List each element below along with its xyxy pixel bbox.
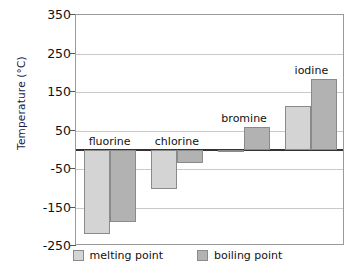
- y-tick-label: 350: [11, 7, 71, 22]
- bar-iodine-boiling-point: [311, 79, 337, 150]
- y-tick-label: 50: [11, 122, 71, 137]
- group-label-iodine: iodine: [295, 64, 329, 77]
- bar-iodine-melting-point: [285, 106, 311, 150]
- legend-item-melting[interactable]: melting point: [73, 249, 163, 262]
- group-label-fluorine: fluorine: [89, 135, 131, 148]
- bar-chlorine-boiling-point: [177, 150, 203, 163]
- group-label-bromine: bromine: [221, 112, 267, 125]
- bar-bromine-boiling-point: [244, 127, 270, 150]
- gridline: [76, 92, 343, 93]
- legend-item-boiling[interactable]: boiling point: [197, 249, 282, 262]
- y-tick-label: 150: [11, 84, 71, 99]
- y-tick-mark: [69, 168, 75, 169]
- bar-fluorine-melting-point: [84, 150, 110, 235]
- legend-label-boiling: boiling point: [214, 249, 282, 262]
- y-tick-mark: [69, 245, 75, 246]
- y-tick-mark: [69, 14, 75, 15]
- melting-swatch-icon: [73, 250, 84, 261]
- boiling-swatch-icon: [197, 250, 208, 261]
- y-tick-label: -50: [11, 161, 71, 176]
- gridline: [76, 54, 343, 55]
- plot-area: fluorinechlorinebromineiodine: [75, 14, 344, 245]
- y-tick-label: -150: [11, 199, 71, 214]
- y-tick-label: -250: [11, 238, 71, 253]
- bar-chlorine-melting-point: [151, 150, 177, 189]
- group-label-chlorine: chlorine: [155, 135, 199, 148]
- bar-fluorine-boiling-point: [110, 150, 136, 222]
- y-tick-mark: [69, 207, 75, 208]
- y-tick-mark: [69, 53, 75, 54]
- chart-container: Temperature (°C) fluorinechlorinebromine…: [0, 0, 355, 274]
- y-tick-mark: [69, 91, 75, 92]
- legend-label-melting: melting point: [90, 249, 163, 262]
- y-tick-mark: [69, 130, 75, 131]
- y-tick-label: 250: [11, 45, 71, 60]
- bar-bromine-melting-point: [218, 150, 244, 153]
